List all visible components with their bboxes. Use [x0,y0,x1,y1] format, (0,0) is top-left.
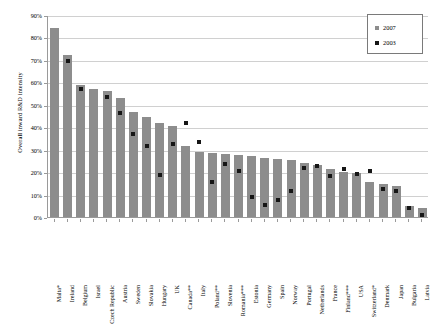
x-axis-tick-label: Denmark [384,285,390,328]
x-axis-tick-label: Canada** [187,285,193,328]
y-axis-tick-mark [44,61,47,62]
x-axis-tick-label: Israel [95,285,101,328]
x-axis-tick-mark [172,219,173,222]
legend-item-2007: 2007 [375,20,422,35]
y-axis-tick-mark [44,128,47,129]
x-axis-tick-label: Switzerland* [371,285,377,328]
x-axis-tick-label: Netherlands [319,285,325,328]
y-axis-tick-label: 50% [22,103,42,109]
x-axis-tick-mark [93,219,94,222]
x-axis-tick-mark [343,219,344,222]
y-axis-tick-label: 90% [22,13,42,19]
x-axis-tick-label: Japan [398,285,404,328]
x-axis-tick-label: Belgium [82,285,88,328]
y-axis-tick-mark [44,83,47,84]
data-point-marker [250,195,254,199]
data-point-marker [118,111,122,115]
chart-legend: 2007 2003 [367,14,423,54]
y-axis-tick-mark [44,16,47,17]
x-axis-tick-mark [80,219,81,222]
data-point-marker [328,174,332,178]
x-axis-tick-label: Germany [266,285,272,328]
x-axis-tick-label: Slovenia [227,285,233,328]
x-axis-tick-mark [277,219,278,222]
x-axis-tick-label: Ireland [69,285,75,328]
x-axis-tick-label: UK [174,285,180,328]
x-axis-tick-mark [67,219,68,222]
y-axis-tick-label: 20% [22,170,42,176]
data-point-marker [158,173,162,177]
x-axis-tick-label: Poland** [214,285,220,328]
y-axis-tick-label: 30% [22,148,42,154]
x-axis-tick-mark [159,219,160,222]
y-axis-tick-label: 40% [22,125,42,131]
x-axis-tick-mark [408,219,409,222]
data-point-marker [381,187,385,191]
data-point-marker [210,180,214,184]
y-axis-tick-mark [44,173,47,174]
x-axis-tick-label: Portugal [306,285,312,328]
x-axis-labels: Malta*IrelandBelgiumIsraelCzech Republic… [47,219,428,287]
y-axis-tick-mark [44,106,47,107]
x-axis-tick-label: Bulgaria [411,285,417,328]
x-axis-tick-label: Slovakia [148,285,154,328]
data-point-marker [394,189,398,193]
x-axis-tick-mark [290,219,291,222]
data-point-marker [368,169,372,173]
x-axis-tick-label: Romania*** [240,285,246,328]
x-axis-tick-mark [369,219,370,222]
y-axis-tick-label: 10% [22,193,42,199]
x-axis-tick-mark [211,219,212,222]
data-point-marker [237,169,241,173]
x-axis-tick-mark [251,219,252,222]
data-point-marker [105,95,109,99]
data-point-marker [184,121,188,125]
x-axis-tick-mark [382,219,383,222]
x-axis-tick-label: France [332,285,338,328]
data-point-marker [342,167,346,171]
x-axis-tick-mark [356,219,357,222]
x-axis-tick-mark [421,219,422,222]
data-point-marker [197,140,201,144]
legend-item-2003: 2003 [375,35,422,50]
x-axis-tick-label: Malta* [56,285,62,328]
x-axis-tick-mark [329,219,330,222]
data-point-marker [315,164,319,168]
y-axis-tick-label: 80% [22,35,42,41]
x-axis-tick-mark [54,219,55,222]
legend-label-2007: 2007 [383,24,396,31]
x-axis-tick-mark [132,219,133,222]
data-point-marker [223,162,227,166]
y-axis-tick-label: 60% [22,80,42,86]
data-point-marker [171,142,175,146]
x-axis-tick-mark [264,219,265,222]
x-axis-tick-label: Hungary [161,285,167,328]
x-axis-tick-label: Italy [200,285,206,328]
x-axis-tick-mark [198,219,199,222]
legend-label-2003: 2003 [383,39,396,46]
x-axis-tick-label: Estonia [253,285,259,328]
data-point-marker [263,203,267,207]
data-point-marker [276,198,280,202]
x-axis-tick-mark [316,219,317,222]
data-point-marker [302,166,306,170]
data-point-marker [355,172,359,176]
x-axis-tick-label: Spain [279,285,285,328]
data-point-marker [145,144,149,148]
x-axis-tick-mark [395,219,396,222]
legend-swatch-2007-icon [375,26,379,30]
x-axis-tick-mark [303,219,304,222]
data-point-marker [66,59,70,63]
x-axis-tick-mark [185,219,186,222]
data-point-marker [407,206,411,210]
y-axis-tick-mark [44,38,47,39]
x-axis-tick-label: Finland*** [345,285,351,328]
x-axis-tick-label: Sweden [135,285,141,328]
y-axis-tick-label: 0% [22,215,42,221]
y-axis-title: Overall inward R&D intensity [12,14,26,210]
y-axis-tick-mark [44,151,47,152]
x-axis-tick-mark [119,219,120,222]
x-axis-tick-label: Czech Republic [109,285,115,328]
data-point-marker [131,132,135,136]
